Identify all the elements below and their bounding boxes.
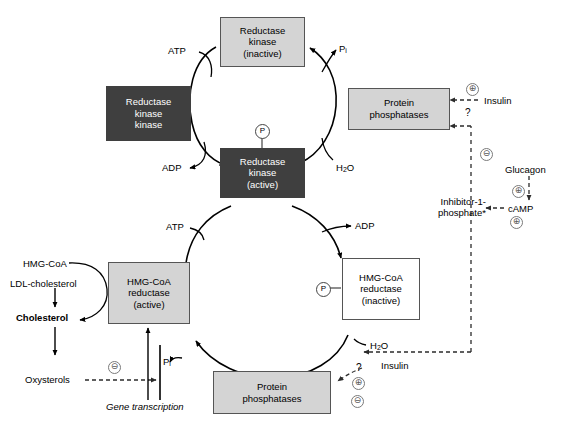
- label-gene-transcription: Gene transcription: [106, 401, 184, 412]
- box-line-2: reductase: [128, 287, 170, 299]
- box-reductase-kinase-kinase[interactable]: Reductase kinase kinase: [106, 86, 191, 141]
- label-pi-top: Pi: [339, 43, 347, 55]
- box-reductase-kinase-active[interactable]: Reductase kinase (active): [220, 148, 305, 198]
- box-line-1: HMG-CoA: [359, 272, 403, 284]
- label-inhibitor-1-phosphate: Inhibitor-1- phosphate*: [416, 196, 486, 219]
- box-line-2: phosphatases: [242, 393, 301, 405]
- inhibitor-line-2: phosphate*: [438, 207, 486, 218]
- h2o-o: O: [381, 340, 388, 351]
- label-insulin-bottom: Insulin: [381, 360, 408, 371]
- phosphate-letter: P: [260, 126, 265, 135]
- h2o-h: H: [370, 340, 377, 351]
- plus-sign-glucagon: ⊕: [512, 185, 525, 198]
- label-pi-bottom: Pi: [163, 356, 171, 368]
- box-line-1: Protein: [257, 381, 287, 393]
- pi-subscript: i: [345, 47, 347, 54]
- box-line-2: phosphatases: [369, 109, 428, 121]
- label-atp-top: ATP: [168, 45, 186, 56]
- box-reductase-kinase-inactive[interactable]: Reductase kinase (inactive): [220, 17, 305, 67]
- inhibitor-line-1: Inhibitor-1-: [441, 196, 486, 207]
- box-line-1: Reductase: [126, 96, 171, 108]
- minus-sign-inhibitor-top: ⊖: [480, 148, 493, 161]
- box-line-2: kinase: [249, 36, 276, 48]
- label-cholesterol: Cholesterol: [16, 312, 68, 323]
- box-hmgcoa-reductase-active[interactable]: HMG-CoA reductase (active): [108, 262, 190, 324]
- label-insulin-top: Insulin: [484, 95, 511, 106]
- h2o-h: H: [336, 162, 343, 173]
- box-line-3: kinase: [135, 119, 162, 131]
- box-line-2: kinase: [135, 108, 162, 120]
- phosphate-mark-hmgcoa-reductase: P: [316, 282, 331, 297]
- box-line-1: Protein: [384, 97, 414, 109]
- label-atp-bottom: ATP: [166, 221, 184, 232]
- minus-sign-inhibitor-bottom: ⊖: [351, 395, 364, 408]
- box-hmgcoa-reductase-inactive[interactable]: HMG-CoA reductase (inactive): [342, 258, 420, 320]
- box-line-3: (active): [247, 179, 278, 191]
- box-line-1: Reductase: [240, 25, 285, 37]
- plus-sign-camp: ⊕: [510, 216, 523, 229]
- label-h2o-bottom: H2O: [370, 340, 388, 352]
- plus-sign-insulin-bottom: ⊕: [352, 377, 365, 390]
- phosphate-mark-reductase-kinase: P: [255, 124, 270, 139]
- box-line-1: HMG-CoA: [127, 276, 171, 288]
- box-line-2: reductase: [360, 283, 402, 295]
- label-ldl-cholesterol: LDL-cholesterol: [10, 278, 77, 289]
- question-mark-bottom: ?: [356, 362, 362, 373]
- box-line-3: (inactive): [243, 48, 282, 60]
- label-adp-bottom: ADP: [355, 220, 375, 231]
- minus-sign-oxysterols: ⊖: [108, 361, 121, 374]
- pi-subscript: i: [169, 360, 171, 367]
- plus-sign-insulin-top: ⊕: [466, 83, 479, 96]
- h2o-o: O: [347, 162, 354, 173]
- label-hmg-coa: HMG-CoA: [23, 258, 67, 269]
- label-camp: cAMP: [508, 203, 533, 214]
- label-adp-top: ADP: [162, 162, 182, 173]
- question-mark-top: ?: [465, 107, 471, 118]
- diagram-canvas: Reductase kinase (inactive) Reductase ki…: [0, 0, 575, 429]
- box-line-2: kinase: [249, 167, 276, 179]
- box-line-3: (inactive): [362, 295, 401, 307]
- box-protein-phosphatases-bottom[interactable]: Protein phosphatases: [213, 371, 331, 414]
- label-oxysterols: Oxysterols: [25, 374, 70, 385]
- box-line-1: Reductase: [240, 156, 285, 168]
- label-glucagon: Glucagon: [505, 164, 546, 175]
- box-line-3: (active): [133, 299, 164, 311]
- phosphate-letter: P: [321, 284, 326, 293]
- box-protein-phosphatases-top[interactable]: Protein phosphatases: [348, 88, 450, 130]
- label-h2o-top: H2O: [336, 162, 354, 174]
